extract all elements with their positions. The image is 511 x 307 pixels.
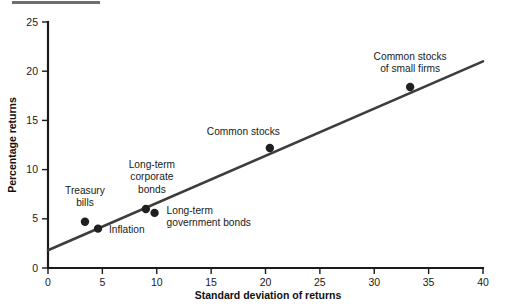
x-tick-label: 5: [99, 276, 105, 288]
point-label: Inflation: [109, 224, 145, 235]
point-label: Common stocks: [207, 126, 280, 137]
y-tick-labels: 0510152025: [26, 16, 38, 274]
y-axis-title: Percentage returns: [6, 97, 18, 193]
x-tick-label: 10: [151, 276, 163, 288]
x-axis-title: Standard deviation of returns: [195, 289, 342, 301]
data-dot: [266, 144, 274, 152]
y-tick-label: 20: [26, 65, 38, 77]
x-tick-label: 20: [260, 276, 272, 288]
x-tick-label: 30: [368, 276, 380, 288]
y-tick-label: 5: [32, 212, 38, 224]
data-dot: [81, 218, 89, 226]
y-tick-label: 10: [26, 163, 38, 175]
data-dot: [94, 224, 102, 232]
x-tick-label: 0: [45, 276, 51, 288]
x-tick-label: 40: [477, 276, 489, 288]
point-label: Common stocksof small firms: [374, 51, 447, 75]
point-annotations: TreasurybillsInflationLong-termcorporate…: [65, 51, 447, 235]
y-tick-label: 15: [26, 114, 38, 126]
data-dot: [406, 83, 414, 91]
x-tick-labels: 0510152025303540: [45, 276, 489, 288]
data-points: [81, 83, 415, 233]
x-tick-label: 35: [423, 276, 435, 288]
data-dot: [142, 205, 150, 213]
point-label: Long-termgovernment bonds: [167, 205, 251, 229]
point-label: Long-termcorporatebonds: [129, 159, 175, 195]
chart-figure: 0510152025 0510152025303540 Treasurybill…: [0, 0, 511, 307]
y-tick-label: 0: [32, 262, 38, 274]
x-tick-label: 25: [314, 276, 326, 288]
y-tick-label: 25: [26, 16, 38, 28]
x-tick-label: 15: [205, 276, 217, 288]
scatter-plot: 0510152025 0510152025303540 Treasurybill…: [0, 0, 511, 307]
point-label: Treasurybills: [65, 185, 106, 209]
data-dot: [150, 209, 158, 217]
trend-line: [48, 61, 483, 250]
